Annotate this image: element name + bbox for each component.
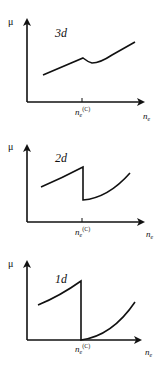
critical-density-sup: (C): [82, 343, 90, 349]
x-axis-label-2d: ne: [146, 229, 153, 240]
critical-density-label-1d: ne(C): [75, 343, 90, 355]
x-axis-sub: e: [150, 352, 153, 358]
curve-1d: [38, 281, 135, 340]
panel-3d: [27, 20, 143, 102]
critical-density-label-3d: ne(C): [75, 106, 90, 118]
x-axis-label-3d: ne: [143, 111, 150, 122]
critical-density-sup: (C): [82, 106, 90, 112]
dimension-label-2d: 2d: [55, 151, 67, 166]
x-axis-sub: e: [151, 234, 154, 240]
y-axis-label-3d: μ: [8, 16, 13, 27]
dimension-label-3d: 3d: [55, 26, 67, 41]
panel-2d: [27, 146, 143, 222]
panel-1d: [27, 262, 140, 340]
critical-density-sub: e: [80, 112, 83, 118]
critical-density-sup: (C): [82, 226, 90, 232]
dimension-label-1d: 1d: [55, 272, 67, 287]
critical-density-label-2d: ne(C): [75, 226, 90, 238]
curve-3d: [43, 42, 135, 75]
curve-2d: [41, 167, 130, 200]
critical-density-sub: e: [80, 349, 83, 355]
y-axis-label-2d: μ: [8, 141, 13, 152]
y-axis-label-1d: μ: [8, 258, 13, 269]
x-axis-sub: e: [148, 116, 151, 122]
diagram-canvas: [0, 0, 168, 373]
critical-density-sub: e: [80, 232, 83, 238]
x-axis-label-1d: ne: [145, 347, 152, 358]
